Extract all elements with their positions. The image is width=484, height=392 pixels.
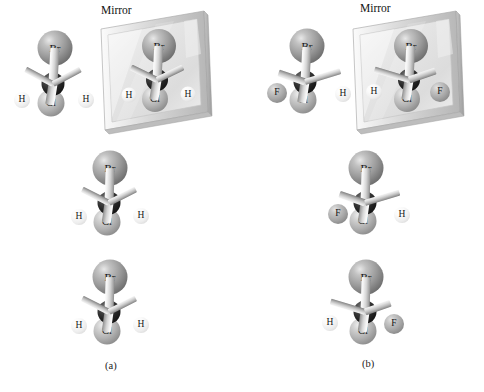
mirror-label-b: Mirror: [360, 2, 391, 14]
caption-b: (b): [362, 358, 374, 369]
atom-hydrogen: H: [394, 207, 410, 223]
chirality-figure: Mirror H H Cl Br H H Cl: [0, 0, 484, 392]
atom-label-h: H: [327, 318, 334, 328]
atom-label-h: H: [126, 90, 133, 100]
atom-hydrogen-right: H: [78, 92, 94, 108]
atom-label-h: H: [340, 89, 347, 99]
atom-hydrogen-right: H: [133, 208, 149, 224]
mirror-label-a: Mirror: [101, 4, 132, 16]
atom-hydrogen: H: [366, 84, 382, 100]
atom-label-h: H: [76, 212, 83, 222]
atom-fluorine: F: [328, 204, 348, 224]
atom-label-h: H: [76, 321, 83, 331]
atom-hydrogen: H: [335, 86, 351, 102]
atom-label-f: F: [437, 87, 442, 97]
atom-label-f: F: [274, 88, 279, 98]
atom-fluorine: F: [267, 83, 287, 103]
atom-label-h: H: [399, 210, 406, 220]
atom-hydrogen-right: H: [133, 317, 149, 333]
atom-hydrogen-right: H: [181, 87, 196, 102]
atom-hydrogen: H: [322, 315, 338, 331]
atom-hydrogen-left: H: [71, 209, 87, 225]
atom-hydrogen-left: H: [14, 92, 30, 108]
atom-label-h: H: [138, 211, 145, 221]
atom-fluorine: F: [430, 82, 450, 102]
atom-fluorine: F: [384, 314, 404, 334]
atom-label-h: H: [371, 87, 378, 97]
atom-label-f: F: [335, 209, 340, 219]
atom-hydrogen-left: H: [71, 318, 87, 334]
atom-label-h: H: [83, 95, 90, 105]
atom-label-h: H: [185, 89, 192, 99]
atom-label-h: H: [19, 95, 26, 105]
caption-a: (a): [105, 360, 117, 371]
atom-label-f: F: [391, 319, 396, 329]
atom-hydrogen-left: H: [122, 88, 137, 103]
atom-label-h: H: [138, 320, 145, 330]
